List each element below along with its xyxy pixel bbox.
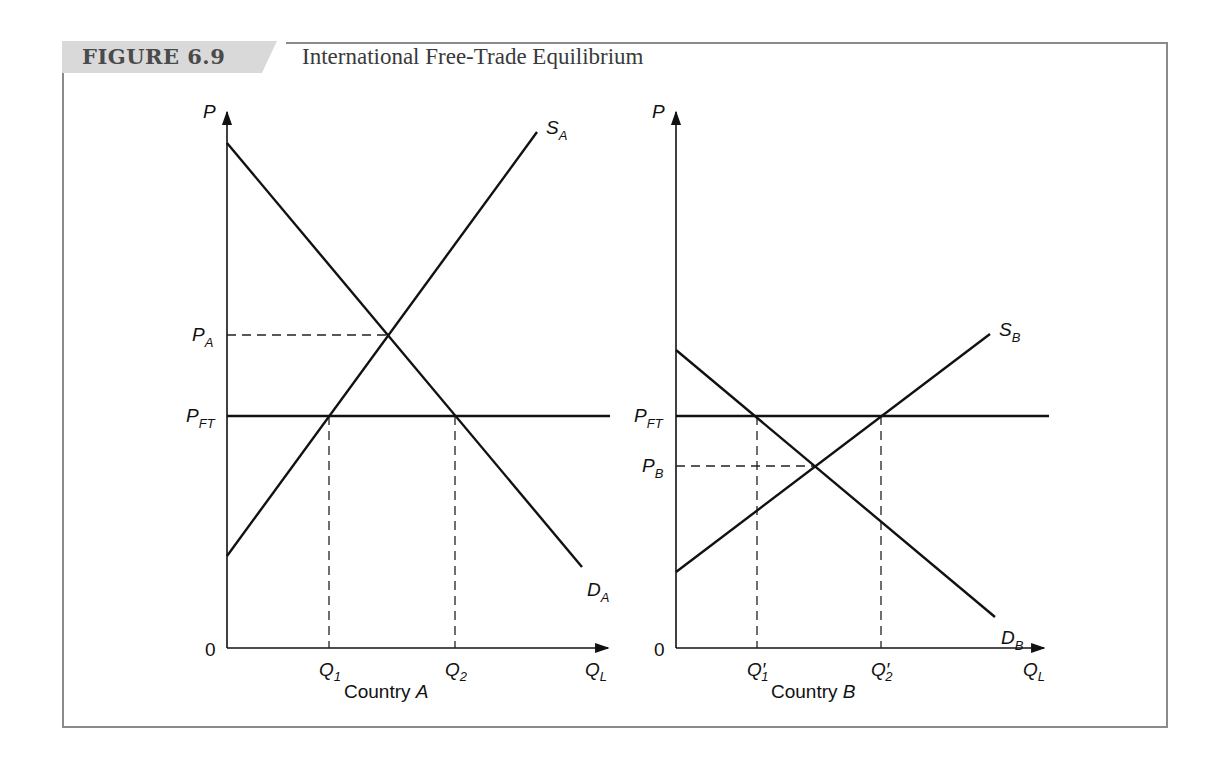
pb-label: PB	[642, 455, 664, 481]
da-label: DA	[587, 579, 609, 605]
pft-label: PFT	[186, 405, 216, 431]
chart-country-b: P 0 SB DB PB PFT Q′1 Q′2 QL Country B	[634, 101, 1049, 702]
country-a-label: Country A	[344, 681, 429, 702]
demand-curve-b	[676, 350, 995, 617]
country-b-label: Country B	[771, 681, 856, 702]
pft-label: PFT	[634, 405, 664, 431]
sb-label: SB	[999, 319, 1021, 345]
chart-country-a: P 0 SA DA PA PFT Q1 Q2 QL Country A	[186, 101, 610, 702]
origin-label: 0	[654, 639, 665, 660]
q2-label: Q2	[445, 659, 468, 684]
supply-curve-b	[676, 334, 990, 572]
pa-label: PA	[192, 324, 213, 350]
supply-curve-a	[227, 132, 537, 556]
q1-prime-label: Q′1	[747, 659, 769, 684]
ql-label: QL	[585, 659, 607, 684]
demand-curve-a	[227, 143, 582, 567]
ql-label: QL	[1023, 659, 1045, 684]
origin-label: 0	[205, 639, 216, 660]
charts: P 0 SA DA PA PFT Q1 Q2 QL Country A P 0 …	[0, 0, 1228, 767]
db-label: DB	[1001, 627, 1024, 653]
q2-prime-label: Q′2	[871, 659, 893, 684]
sa-label: SA	[546, 117, 567, 143]
p-axis-label: P	[652, 101, 665, 122]
p-axis-label: P	[203, 101, 216, 122]
q1-label: Q1	[319, 659, 341, 684]
